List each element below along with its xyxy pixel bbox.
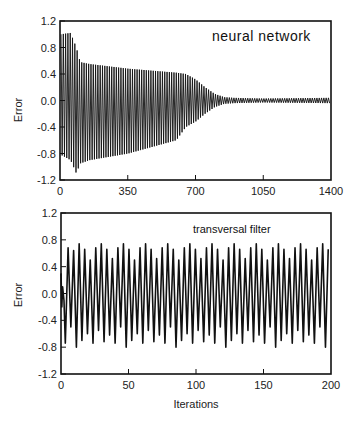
x-tick-label: 0 [57, 185, 63, 197]
plot2-x-ticks: 050100150200 [58, 369, 340, 391]
figure: 1.20.80.40.0-0.4-0.8-1.2 035070010501400… [0, 0, 353, 427]
y-tick-label: -0.4 [38, 314, 57, 326]
x-tick-label: 700 [186, 185, 204, 197]
plot2-y-axis-title: Error [12, 282, 24, 307]
x-tick-label: 200 [322, 379, 340, 391]
y-tick-label: 1.2 [41, 15, 56, 27]
x-tick-label: 50 [122, 379, 134, 391]
x-tick-label: 0 [58, 379, 64, 391]
y-tick-label: -1.2 [37, 174, 56, 186]
x-tick-label: 150 [254, 379, 272, 391]
y-tick-label: 0.4 [42, 261, 57, 273]
y-tick-label: -0.8 [38, 341, 57, 353]
y-tick-label: 0.4 [41, 68, 56, 80]
x-tick-label: 1400 [319, 185, 343, 197]
y-tick-label: 0.0 [42, 288, 57, 300]
transversal-filter-error-trace [61, 244, 328, 347]
plot2-y-ticks: 1.20.80.40.0-0.4-0.8-1.2 [38, 207, 66, 380]
plot-transversal-filter: 1.20.80.40.0-0.4-0.8-1.2 050100150200 tr… [12, 207, 340, 410]
y-tick-label: -0.4 [37, 121, 56, 133]
y-tick-label: -1.2 [38, 368, 57, 380]
y-tick-label: 0.8 [42, 234, 57, 246]
x-tick-label: 100 [187, 379, 205, 391]
y-tick-label: 0.0 [41, 95, 56, 107]
plot-neural-network: 1.20.80.40.0-0.4-0.8-1.2 035070010501400… [12, 15, 343, 197]
plot2-title: transversal filter [193, 223, 271, 235]
y-tick-label: 1.2 [42, 207, 57, 219]
neural-network-error-trace [61, 33, 330, 173]
plot1-y-axis-title: Error [12, 97, 24, 122]
plot2-x-axis-title: Iterations [173, 398, 219, 410]
y-tick-label: 0.8 [41, 42, 56, 54]
y-tick-label: -0.8 [37, 148, 56, 160]
plot1-x-ticks: 035070010501400 [57, 175, 343, 197]
x-tick-label: 1050 [251, 185, 275, 197]
plot1-title: neural network [212, 28, 311, 44]
x-tick-label: 350 [119, 185, 137, 197]
